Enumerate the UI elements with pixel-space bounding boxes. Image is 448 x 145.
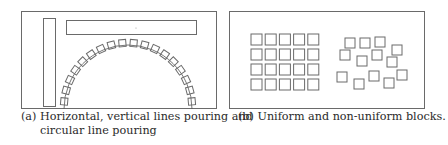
uniform-block	[279, 79, 290, 90]
non-uniform-block	[387, 57, 397, 67]
figure: (a) Horizontal, vertical lines pouring a…	[0, 0, 448, 145]
subfigure-b-panel	[230, 12, 425, 109]
uniform-block	[308, 79, 319, 90]
uniform-block	[294, 79, 305, 90]
uniform-block	[265, 79, 276, 90]
uniform-block	[279, 49, 290, 60]
uniform-block	[251, 49, 262, 60]
non-uniform-block	[345, 38, 355, 48]
caption-b: (b) Uniform and non-uniform blocks.	[238, 110, 446, 124]
uniform-block	[279, 34, 290, 45]
arc-block	[107, 41, 116, 50]
uniform-block	[265, 49, 276, 60]
arc-block	[176, 65, 186, 75]
non-uniform-block	[397, 70, 407, 80]
non-uniform-block	[340, 50, 350, 60]
non-uniform-block	[392, 45, 402, 55]
uniform-block	[265, 34, 276, 45]
subfigure-a-panel	[22, 12, 217, 110]
uniform-block	[251, 64, 262, 75]
uniform-block	[279, 64, 290, 75]
uniform-block	[308, 34, 319, 45]
marker-dot	[135, 27, 136, 28]
arc-block	[181, 75, 190, 84]
arc-block	[78, 57, 88, 67]
uniform-block	[294, 34, 305, 45]
non-uniform-block	[360, 38, 370, 48]
uniform-block	[294, 64, 305, 75]
non-uniform-block	[369, 71, 379, 81]
non-uniform-block	[372, 50, 382, 60]
uniform-block	[308, 64, 319, 75]
uniform-block	[251, 79, 262, 90]
caption-a-line1: (a) Horizontal, vertical lines pouring a…	[21, 110, 253, 124]
vertical-line-block	[44, 19, 56, 107]
arc-block	[71, 65, 81, 75]
non-uniform-block	[337, 72, 347, 82]
non-uniform-block	[375, 37, 385, 47]
horizontal-line-block	[67, 21, 197, 35]
non-uniform-block	[357, 56, 367, 66]
circular-arc-path	[64, 45, 192, 109]
uniform-block	[251, 34, 262, 45]
caption-a-line2: circular line pouring	[40, 124, 157, 138]
arc-block	[168, 57, 178, 67]
uniform-block	[294, 49, 305, 60]
arc-block	[140, 41, 149, 50]
non-uniform-blocks	[337, 37, 407, 89]
uniform-block	[265, 64, 276, 75]
arc-blocks	[60, 39, 195, 105]
non-uniform-block	[354, 79, 364, 89]
uniform-blocks-grid	[251, 34, 319, 90]
uniform-block	[308, 49, 319, 60]
arc-block	[65, 75, 74, 84]
non-uniform-block	[384, 78, 394, 88]
